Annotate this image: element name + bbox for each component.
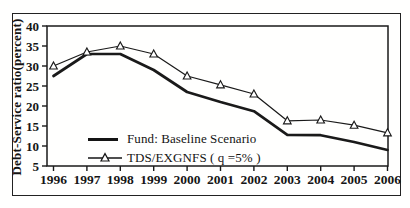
- x-tick-label: 2005: [341, 172, 368, 187]
- x-tick-label: 2002: [240, 172, 267, 187]
- x-tick-label: 1997: [73, 172, 100, 187]
- series-line-1: [54, 46, 388, 133]
- y-tick-label: 35: [26, 39, 40, 54]
- tds-line-sample: [88, 152, 122, 164]
- x-tick-label: 1998: [107, 172, 134, 187]
- y-tick-label: 10: [26, 139, 39, 154]
- y-tick-label: 40: [26, 19, 39, 34]
- y-tick-label: 5: [33, 159, 40, 174]
- solid-line-icon: [88, 138, 118, 141]
- triangle-marker: [183, 72, 191, 79]
- x-tick-label: 2006: [374, 172, 401, 187]
- x-tick-label: 2000: [174, 172, 201, 187]
- x-tick-label: 1996: [40, 172, 67, 187]
- legend-item-fund: Fund: Baseline Scenario: [88, 130, 261, 148]
- legend-label-fund: Fund: Baseline Scenario: [127, 131, 256, 147]
- y-tick-label: 20: [26, 99, 39, 114]
- fund-line-sample: [88, 138, 122, 141]
- x-tick-label: 1999: [140, 172, 167, 187]
- y-tick-label: 30: [26, 59, 39, 74]
- x-tick-label: 2001: [207, 172, 234, 187]
- legend-item-tds: TDS/EXGNFS ( q =5% ): [88, 149, 261, 167]
- x-tick-label: 2004: [307, 172, 334, 187]
- y-tick-label: 15: [26, 119, 40, 134]
- triangle-marker: [117, 42, 125, 49]
- line-chart-canvas: 5101520253035401996199719981999200020012…: [0, 0, 410, 208]
- chart-legend: Fund: Baseline Scenario TDS/EXGNFS ( q =…: [88, 130, 261, 167]
- legend-label-tds: TDS/EXGNFS ( q =5% ): [127, 150, 261, 166]
- x-tick-label: 2003: [274, 172, 301, 187]
- chart-figure: 5101520253035401996199719981999200020012…: [0, 0, 410, 208]
- triangle-line-icon: [88, 152, 122, 164]
- y-tick-label: 25: [26, 79, 40, 94]
- y-axis-title: Debt-Service ratio(percent): [9, 9, 25, 185]
